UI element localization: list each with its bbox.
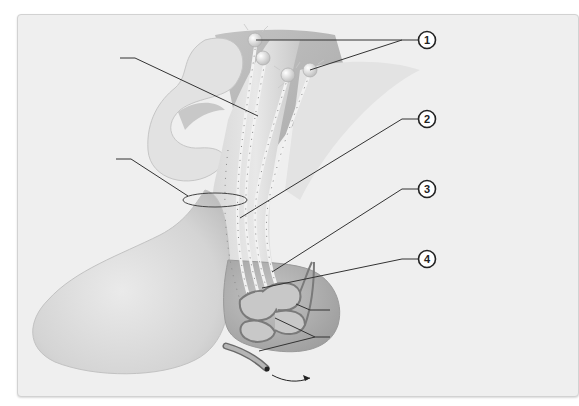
callout-1: 1 [419,32,436,49]
callout-4-label: 4 [424,253,431,265]
callout-3: 3 [419,181,436,198]
blood-flow-arrow [272,375,310,381]
callout-1-label: 1 [424,34,430,46]
callout-2: 2 [419,111,436,128]
anterior-pituitary [33,190,231,374]
callout-2-label: 2 [424,113,430,125]
callout-4: 4 [419,251,436,268]
callout-3-label: 3 [424,183,430,195]
